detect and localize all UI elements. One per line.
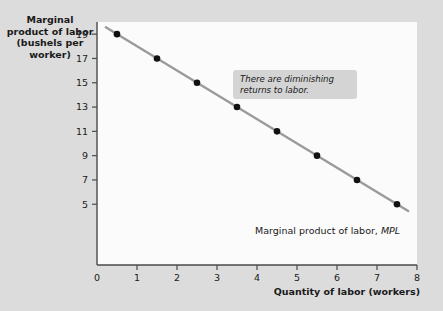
x-tick-label: 4 [254,272,260,283]
x-tick-label: 7 [374,272,380,283]
y-tick-label: 13 [76,101,88,112]
data-point [114,31,121,38]
x-tick-label: 2 [174,272,180,283]
annotation-text-line: There are diminishing [240,74,335,84]
y-tick-label: 7 [82,174,88,185]
data-point [354,177,361,184]
data-point [234,104,241,111]
y-tick-label: 5 [82,199,88,210]
chart-plot-area: 1917151311975012345678There are diminish… [0,0,443,311]
annotation-text-line: returns to labor. [240,85,309,95]
y-tick-label: 17 [76,53,88,64]
curve-label-text: Marginal product of labor, [255,225,381,236]
x-tick-label: 0 [94,272,100,283]
y-tick-label: 15 [76,77,88,88]
curve-label: Marginal product of labor, MPL [255,225,400,236]
x-tick-label: 5 [294,272,300,283]
x-tick-label: 6 [334,272,340,283]
x-tick-label: 1 [134,272,140,283]
y-tick-label: 19 [76,29,88,40]
data-point [314,152,321,159]
y-tick-label: 9 [82,150,88,161]
x-tick-label: 3 [214,272,220,283]
data-point [274,128,281,135]
data-point [194,79,201,86]
data-point [154,55,161,62]
curve-label-symbol: MPL [381,225,400,236]
data-point [394,201,401,208]
x-tick-label: 8 [414,272,420,283]
x-axis-title: Quantity of labor (workers) [215,286,420,297]
y-tick-label: 11 [76,126,88,137]
figure: Marginal product of labor (bushels per w… [0,0,443,311]
